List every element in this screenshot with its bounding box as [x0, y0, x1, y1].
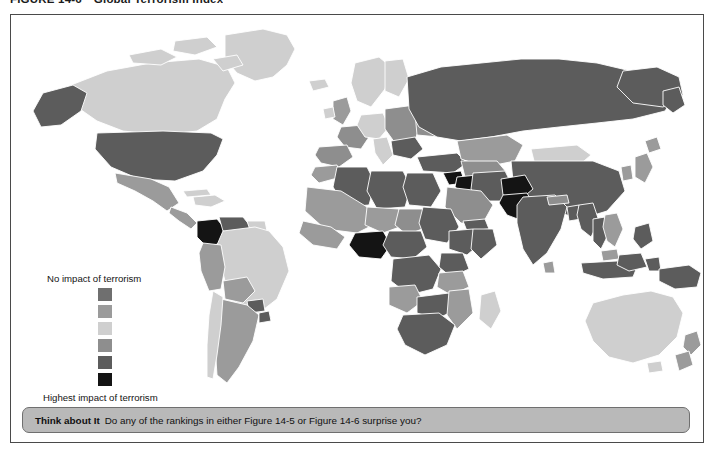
figure-number: FIGURE 14-6: [10, 0, 82, 5]
legend-swatch-2: [98, 305, 112, 318]
legend-bottom-label: Highest impact of terrorism: [43, 392, 241, 404]
think-about-it-question: Do any of the rankings in either Figure …: [105, 415, 422, 426]
think-about-it-text: Think about ItDo any of the rankings in …: [35, 415, 421, 426]
region-uruguay: [259, 311, 271, 323]
think-about-it-lead: Think about It: [35, 415, 100, 426]
figure-title-text: Global Terrorism Index: [94, 0, 223, 5]
figure-container: FIGURE 14-6Global Terrorism Index: [0, 0, 715, 457]
legend-swatch-3: [98, 322, 112, 335]
legend-top-label: No impact of terrorism: [47, 273, 241, 285]
legend-swatch-6: [98, 373, 112, 386]
think-about-it-bar: Think about ItDo any of the rankings in …: [22, 407, 690, 433]
world-map: No impact of terrorism Highest impact of…: [11, 15, 703, 397]
figure-title: FIGURE 14-6Global Terrorism Index: [10, 0, 223, 5]
region-nepal: [547, 195, 569, 205]
region-sri-lanka: [543, 261, 555, 273]
region-tasmania: [647, 361, 663, 373]
map-legend: No impact of terrorism Highest impact of…: [41, 273, 241, 404]
legend-swatch-4: [98, 339, 112, 352]
region-malaysia: [601, 249, 619, 261]
region-korea: [621, 165, 633, 181]
region-ireland: [323, 107, 335, 119]
legend-swatch-list: [98, 288, 241, 390]
legend-swatch-5: [98, 356, 112, 369]
figure-panel: No impact of terrorism Highest impact of…: [10, 14, 704, 443]
legend-swatch-1: [98, 288, 112, 301]
region-cuba: [183, 189, 211, 197]
